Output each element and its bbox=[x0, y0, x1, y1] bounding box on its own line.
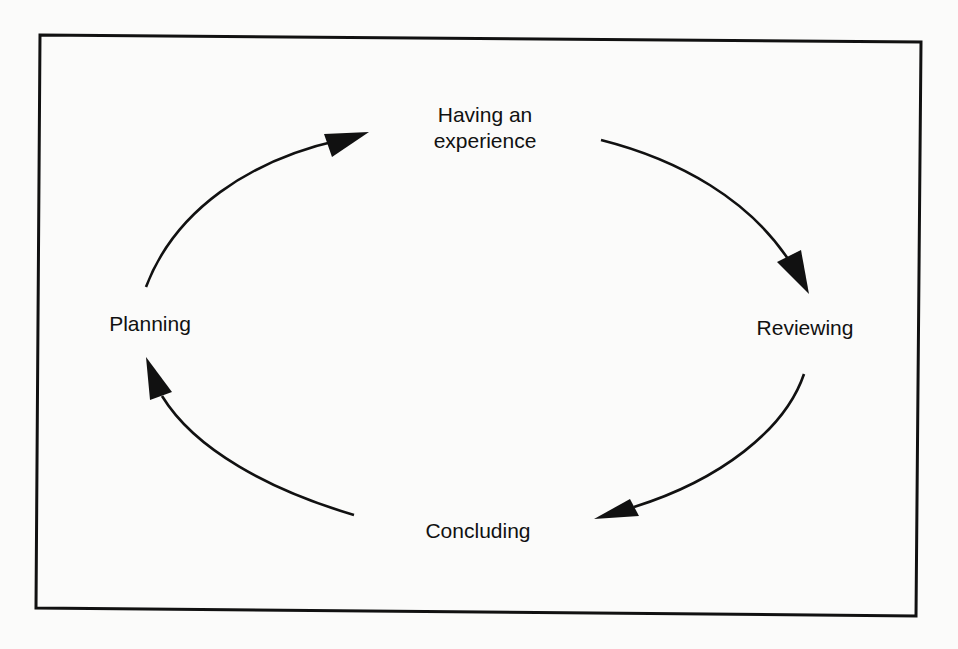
node-having-an-experience: Having an experience bbox=[400, 102, 570, 154]
node-having-line1: Having an bbox=[400, 102, 570, 128]
arrow-having-to-reviewing bbox=[601, 140, 809, 294]
arrow-planning-to-having bbox=[146, 132, 369, 287]
node-reviewing: Reviewing bbox=[740, 315, 870, 341]
arrow-reviewing-to-concluding bbox=[594, 374, 804, 519]
node-having-line2: experience bbox=[400, 128, 570, 154]
arrow-concluding-to-planning bbox=[146, 357, 354, 515]
node-planning: Planning bbox=[90, 311, 210, 337]
node-concluding: Concluding bbox=[408, 518, 548, 544]
learning-cycle-diagram: Having an experience Reviewing Concludin… bbox=[0, 0, 958, 649]
